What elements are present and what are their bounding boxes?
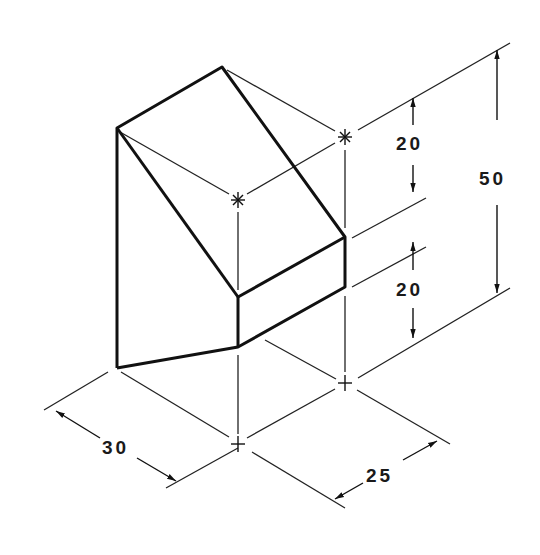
vertex-marker [338,375,352,391]
vertex-marker [231,436,245,452]
object-outline [117,67,345,368]
dim-label-height-total: 50 [479,168,506,189]
dim-label-height-lower: 20 [396,279,423,300]
vertex-marker [338,129,352,145]
dim-label-depth: 25 [366,465,393,486]
isometric-drawing: 50 20 20 30 25 [0,0,540,555]
dim-label-width: 30 [102,437,129,458]
vertex-marker [231,192,245,208]
dim-label-height-upper: 20 [396,133,423,154]
